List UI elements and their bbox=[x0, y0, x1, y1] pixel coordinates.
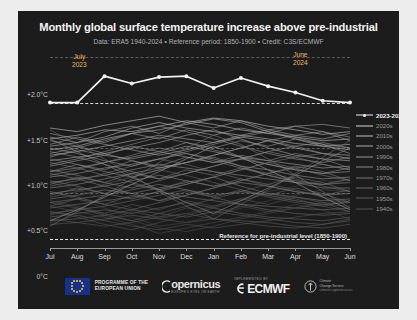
legend-label: 1990s bbox=[376, 153, 393, 160]
legend-item-1970s[interactable]: 1970s bbox=[356, 172, 399, 182]
legend-swatch bbox=[356, 204, 373, 213]
x-tick-label-dec: Dec bbox=[180, 253, 192, 260]
screenshot-frame: Monthly global surface temperature incre… bbox=[0, 0, 417, 320]
annotation-july-2023: July 2023 bbox=[72, 53, 87, 70]
x-tick-label-oct: Oct bbox=[126, 253, 137, 260]
x-tick bbox=[186, 248, 187, 251]
chart-subtitle: Data: ERA5 1940-2024 • Reference period:… bbox=[18, 38, 399, 45]
legend-swatch bbox=[356, 121, 373, 130]
data-point bbox=[103, 74, 107, 78]
data-point bbox=[157, 75, 161, 79]
x-tick-label-jun: Jun bbox=[344, 253, 355, 260]
series-lines bbox=[50, 48, 350, 248]
legend-item-2000s[interactable]: 2000s bbox=[356, 141, 399, 151]
data-point bbox=[266, 84, 270, 88]
y-tick-label: +1.5°C bbox=[18, 136, 48, 143]
eu-flag-icon bbox=[65, 278, 90, 295]
x-tick bbox=[295, 248, 296, 251]
x-tick bbox=[350, 248, 351, 251]
x-tick-label-jul: Jul bbox=[46, 253, 55, 260]
legend-label: 2020s bbox=[376, 122, 393, 129]
copernicus-wordmark: opernicus bbox=[171, 278, 220, 290]
copernicus-swoosh-icon bbox=[162, 280, 171, 293]
c3s-circle-icon bbox=[304, 280, 317, 293]
legend-swatch bbox=[356, 173, 373, 182]
legend[interactable]: 2023-20242020s2010s2000s1990s1980s1970s1… bbox=[356, 110, 399, 214]
ecmwf-wordmark: ECMWF bbox=[247, 282, 289, 296]
y-tick-label: +2.0°C bbox=[18, 91, 48, 98]
data-point bbox=[321, 99, 325, 103]
copernicus-tagline: EUROPE'S EYES ON EARTH bbox=[171, 290, 220, 294]
data-point bbox=[293, 91, 297, 95]
x-tick bbox=[50, 248, 51, 251]
series-line bbox=[50, 181, 350, 219]
ecmwf-logo: IMPLEMENTED BY ECMWF bbox=[234, 277, 289, 296]
legend-item-1950s[interactable]: 1950s bbox=[356, 193, 399, 203]
legend-label: 1940s bbox=[376, 205, 393, 212]
legend-label: 1970s bbox=[376, 174, 393, 181]
series-line-highlight bbox=[50, 76, 350, 102]
x-tick bbox=[214, 248, 215, 251]
data-point bbox=[239, 76, 243, 80]
c3s-logo-text: Climate Change Service climate.copernicu… bbox=[320, 279, 353, 293]
legend-swatch bbox=[356, 142, 373, 151]
x-tick bbox=[323, 248, 324, 251]
legend-item-2010s[interactable]: 2010s bbox=[356, 131, 399, 141]
data-point bbox=[48, 101, 52, 105]
page-title: Monthly global surface temperature incre… bbox=[18, 21, 399, 33]
legend-item-1960s[interactable]: 1960s bbox=[356, 183, 399, 193]
annotation-june-2024: June 2024 bbox=[293, 51, 308, 68]
x-tick-label-feb: Feb bbox=[235, 253, 247, 260]
x-tick bbox=[105, 248, 106, 251]
legend-swatch bbox=[356, 163, 373, 172]
series-line bbox=[50, 121, 350, 141]
ecmwf-mark-icon bbox=[234, 283, 245, 294]
data-point bbox=[184, 74, 188, 78]
legend-item-2020s[interactable]: 2020s bbox=[356, 120, 399, 130]
x-axis: JulAugSepOctNovDecJanFebMarAprMayJun bbox=[50, 248, 350, 270]
legend-label: 1950s bbox=[376, 195, 393, 202]
legend-swatch bbox=[356, 152, 373, 161]
legend-label: 1980s bbox=[376, 164, 393, 171]
data-point bbox=[75, 101, 79, 105]
x-tick-label-nov: Nov bbox=[153, 253, 165, 260]
legend-label: 2000s bbox=[376, 143, 393, 150]
x-axis-line bbox=[50, 248, 350, 249]
legend-label: 2023-2024 bbox=[376, 112, 399, 119]
x-tick-label-jan: Jan bbox=[208, 253, 219, 260]
x-tick bbox=[241, 248, 242, 251]
c3s-logo: Climate Change Service climate.copernicu… bbox=[304, 279, 353, 293]
chart-card: Monthly global surface temperature incre… bbox=[18, 11, 399, 309]
data-point bbox=[130, 81, 134, 85]
x-tick-label-may: May bbox=[316, 253, 329, 260]
legend-label: 2010s bbox=[376, 132, 393, 139]
x-tick-label-mar: Mar bbox=[262, 253, 274, 260]
x-tick bbox=[268, 248, 269, 251]
legend-item-1940s[interactable]: 1940s bbox=[356, 204, 399, 214]
plot-area: July 2023 June 2024 Reference for pre-in… bbox=[50, 48, 350, 248]
legend-item-1980s[interactable]: 1980s bbox=[356, 162, 399, 172]
legend-swatch bbox=[356, 131, 373, 140]
eu-logo-text: PROGRAMME OF THE EUROPEAN UNION bbox=[95, 280, 149, 292]
series-line bbox=[50, 210, 350, 225]
x-tick bbox=[77, 248, 78, 251]
legend-swatch bbox=[356, 183, 373, 192]
x-tick bbox=[132, 248, 133, 251]
implemented-by-label: IMPLEMENTED BY bbox=[234, 277, 268, 281]
footer-logos: PROGRAMME OF THE EUROPEAN UNION opernicu… bbox=[18, 273, 399, 299]
legend-item-2023-2024[interactable]: 2023-2024 bbox=[356, 110, 399, 120]
data-point bbox=[212, 86, 216, 90]
legend-item-1990s[interactable]: 1990s bbox=[356, 152, 399, 162]
x-tick-label-apr: Apr bbox=[290, 253, 301, 260]
x-tick bbox=[159, 248, 160, 251]
copernicus-logo: opernicus EUROPE'S EYES ON EARTH bbox=[162, 278, 220, 294]
x-tick-label-sep: Sep bbox=[98, 253, 110, 260]
data-point bbox=[348, 101, 352, 105]
legend-swatch bbox=[356, 111, 373, 120]
reference-note: Reference for pre-industrial level (1850… bbox=[219, 232, 347, 239]
eu-logo: PROGRAMME OF THE EUROPEAN UNION bbox=[65, 278, 149, 295]
legend-label: 1960s bbox=[376, 184, 393, 191]
legend-swatch bbox=[356, 194, 373, 203]
y-tick-label: +1.0°C bbox=[18, 182, 48, 189]
y-tick-label: +0.5°C bbox=[18, 227, 48, 234]
